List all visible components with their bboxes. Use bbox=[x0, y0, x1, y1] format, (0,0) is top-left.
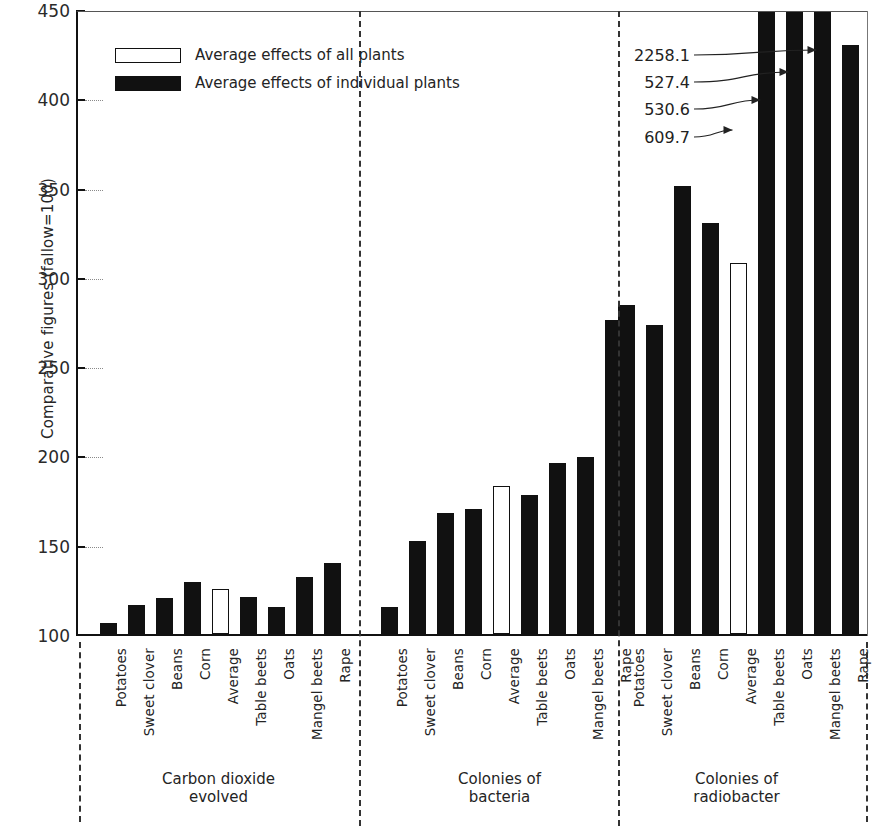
bar bbox=[521, 495, 538, 634]
bar bbox=[212, 589, 229, 634]
group-title: Colonies ofradiobacter bbox=[591, 770, 879, 807]
bar bbox=[437, 513, 454, 634]
group-title-line: evolved bbox=[73, 788, 365, 806]
plot-area bbox=[76, 11, 868, 636]
x-axis-category-label: Table beets bbox=[253, 648, 269, 726]
x-axis-category-label: Rape bbox=[337, 648, 353, 683]
bar bbox=[493, 486, 510, 634]
x-axis-category-label: Corn bbox=[197, 648, 213, 680]
x-axis-category-label: Sweet clover bbox=[141, 648, 157, 736]
bar bbox=[465, 509, 482, 634]
x-axis-category-label: Potatoes bbox=[113, 648, 129, 707]
bar bbox=[577, 457, 594, 634]
bar bbox=[184, 582, 201, 634]
x-axis-category-label: Mangel beets bbox=[827, 648, 843, 740]
chart-figure: Comparative figures (fallow=100) 1001502… bbox=[0, 0, 879, 837]
bar bbox=[842, 45, 859, 634]
x-axis-category-label: Sweet clover bbox=[422, 648, 438, 736]
value-annotation: 530.6 bbox=[610, 100, 690, 119]
x-axis-category-label: Average bbox=[743, 648, 759, 704]
y-axis-title: Comparative figures (fallow=100) bbox=[39, 179, 57, 439]
bar bbox=[646, 325, 663, 634]
chart-legend: Average effects of all plantsAverage eff… bbox=[115, 44, 460, 100]
x-axis-category-label: Table beets bbox=[534, 648, 550, 726]
legend-label: Average effects of individual plants bbox=[195, 74, 460, 92]
bar bbox=[240, 597, 257, 635]
x-axis-category-label: Potatoes bbox=[394, 648, 410, 707]
x-axis-category-label: Oats bbox=[799, 648, 815, 680]
bar bbox=[730, 263, 747, 634]
y-tick-label: 150 bbox=[24, 539, 70, 556]
bar bbox=[409, 541, 426, 634]
y-tick-label: 200 bbox=[24, 449, 70, 466]
legend-swatch-filled bbox=[115, 76, 181, 91]
x-axis-category-label: Corn bbox=[478, 648, 494, 680]
y-tick-label: 300 bbox=[24, 271, 70, 288]
x-axis-category-label: Rape bbox=[855, 648, 871, 683]
group-title: Carbon dioxideevolved bbox=[73, 770, 365, 807]
legend-entry: Average effects of all plants bbox=[115, 44, 460, 66]
legend-entry: Average effects of individual plants bbox=[115, 72, 460, 94]
x-axis-category-label: Average bbox=[225, 648, 241, 704]
y-tick-label: 450 bbox=[24, 3, 70, 20]
bar bbox=[296, 577, 313, 634]
y-tick-label: 250 bbox=[24, 360, 70, 377]
x-axis-category-label: Average bbox=[506, 648, 522, 704]
group-title-line: radiobacter bbox=[591, 788, 879, 806]
legend-swatch-open bbox=[115, 48, 181, 63]
value-annotation: 609.7 bbox=[610, 128, 690, 147]
bar bbox=[324, 563, 341, 634]
x-axis-category-label: Potatoes bbox=[631, 648, 647, 707]
x-axis-category-label: Corn bbox=[715, 648, 731, 680]
bar bbox=[100, 623, 117, 634]
x-axis-category-label: Beans bbox=[450, 648, 466, 690]
plot-right-edge bbox=[867, 11, 868, 636]
value-annotation: 2258.1 bbox=[610, 46, 690, 65]
bar bbox=[674, 186, 691, 634]
x-axis-category-label: Sweet clover bbox=[659, 648, 675, 736]
x-axis-category-label: Mangel beets bbox=[309, 648, 325, 740]
bar bbox=[549, 463, 566, 634]
x-axis-category-label: Oats bbox=[281, 648, 297, 680]
value-annotation: 527.4 bbox=[610, 73, 690, 92]
x-axis-category-label: Beans bbox=[169, 648, 185, 690]
x-axis-category-label: Oats bbox=[562, 648, 578, 680]
group-separator-right bbox=[866, 642, 868, 822]
group-separator bbox=[359, 11, 361, 826]
group-title-line: Carbon dioxide bbox=[73, 770, 365, 788]
y-tick-label: 400 bbox=[24, 92, 70, 109]
x-axis-category-label: Beans bbox=[687, 648, 703, 690]
bar bbox=[381, 607, 398, 634]
bar bbox=[786, 11, 803, 634]
y-tick-label: 350 bbox=[24, 182, 70, 199]
bar bbox=[268, 607, 285, 634]
group-separator-left bbox=[79, 642, 81, 822]
x-axis-category-label: Table beets bbox=[771, 648, 787, 726]
bar bbox=[758, 11, 775, 634]
bar bbox=[156, 598, 173, 634]
bar bbox=[618, 305, 635, 634]
group-title-line: Colonies of bbox=[591, 770, 879, 788]
bar bbox=[128, 605, 145, 634]
bar bbox=[702, 223, 719, 634]
legend-label: Average effects of all plants bbox=[195, 46, 404, 64]
x-axis-category-label: Mangel beets bbox=[590, 648, 606, 740]
bar bbox=[814, 11, 831, 634]
y-tick-label: 100 bbox=[24, 628, 70, 645]
